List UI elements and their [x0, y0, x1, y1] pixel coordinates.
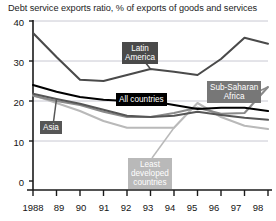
y-tick-label-20: 20 — [0, 97, 24, 108]
sub-saharan-label-line1: Sub-Saharan — [210, 83, 258, 92]
y-tick-label-10: 10 — [0, 137, 24, 148]
chart-container: Debt service exports ratio, % of exports… — [0, 0, 276, 221]
y-tick-label-30: 30 — [0, 57, 24, 68]
series-label-asia: Asia — [40, 121, 62, 134]
latin-america-label-line2: America — [125, 53, 155, 62]
sub-saharan-label-line2: Africa — [224, 92, 245, 101]
series-label-all-countries: All countries — [116, 93, 167, 106]
series-label-sub-saharan-africa: Sub-Saharan Africa — [207, 81, 261, 103]
latin-america-label-line1: Latin — [131, 44, 149, 53]
x-tick-label-98: 98 — [241, 202, 275, 213]
series-label-least-developed-countries: Least developed countries — [128, 158, 172, 189]
y-tick-label-40: 40 — [0, 17, 24, 28]
ldc-label-line2: developed — [131, 169, 169, 178]
y-tick-label-0: 0 — [0, 177, 24, 188]
ldc-label-line1: Least — [140, 160, 160, 169]
callout-pointers — [52, 62, 268, 158]
ldc-label-line3: countries — [133, 178, 166, 187]
series-label-latin-america: Latin America — [122, 42, 158, 64]
x-axis-ticks — [33, 190, 268, 196]
